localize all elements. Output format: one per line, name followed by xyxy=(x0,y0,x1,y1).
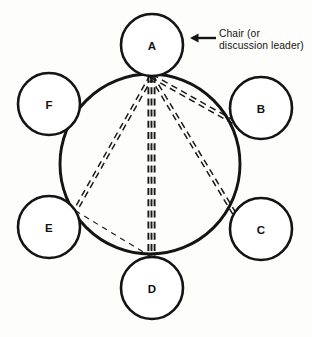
participant-node-d[interactable]: D xyxy=(121,257,183,319)
link-a-c xyxy=(150,75,236,214)
participant-label-d: D xyxy=(148,283,157,295)
link-strand xyxy=(153,75,236,212)
diagram-root: ABCDEF Chair (or discussion leader) xyxy=(0,0,312,337)
chair-annotation-label: Chair (or discussion leader) xyxy=(219,28,304,53)
chair-annotation-arrow xyxy=(190,33,216,42)
link-a-d xyxy=(148,76,154,257)
participant-node-e[interactable]: E xyxy=(18,196,80,258)
participant-label-b: B xyxy=(257,103,266,115)
link-strand xyxy=(152,75,234,121)
link-strand xyxy=(150,77,233,214)
participant-label-f: F xyxy=(45,99,52,111)
annotation-line-2: discussion leader) xyxy=(219,40,304,52)
participant-node-f[interactable]: F xyxy=(18,73,80,135)
participant-label-e: E xyxy=(45,222,53,234)
link-a-e xyxy=(74,75,153,211)
link-strand xyxy=(75,211,151,257)
participant-node-b[interactable]: B xyxy=(230,77,292,139)
link-strand xyxy=(74,75,150,210)
participant-node-c[interactable]: C xyxy=(230,198,292,260)
participant-node-a[interactable]: A xyxy=(121,14,183,76)
annotation-arrow-head xyxy=(190,33,199,42)
participant-label-a: A xyxy=(148,40,157,52)
participant-label-c: C xyxy=(257,224,266,236)
link-e-d xyxy=(75,211,151,257)
annotation-line-1: Chair (or xyxy=(219,28,304,40)
discussion-table-circle xyxy=(60,74,240,254)
